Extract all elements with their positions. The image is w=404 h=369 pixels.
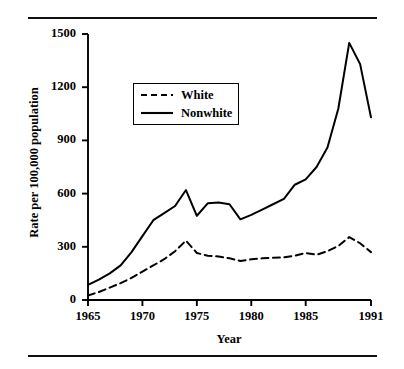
series-line-white xyxy=(88,237,371,296)
chart-legend: White Nonwhite xyxy=(133,83,239,125)
legend-entry-white: White xyxy=(140,86,214,104)
axis-lines xyxy=(88,34,371,300)
y-tick-label: 0 xyxy=(30,292,76,307)
legend-label-nonwhite: Nonwhite xyxy=(181,107,232,120)
x-tick-label: 1980 xyxy=(228,309,274,324)
legend-solid-line-icon xyxy=(140,108,174,118)
legend-label-white: White xyxy=(181,89,214,102)
x-tick-label: 1965 xyxy=(65,309,111,324)
figure-container: 030060090012001500 196519701975198019851… xyxy=(0,0,404,369)
x-tick-label: 1991 xyxy=(348,309,394,324)
bottom-divider-rule xyxy=(28,355,377,357)
y-axis-title: Rate per 100,000 population xyxy=(27,83,42,243)
x-tick-label: 1985 xyxy=(283,309,329,324)
legend-entry-nonwhite: Nonwhite xyxy=(140,104,232,122)
x-axis-title: Year xyxy=(184,332,274,347)
x-tick-label: 1975 xyxy=(174,309,220,324)
x-tick-label: 1970 xyxy=(119,309,165,324)
y-tick-label: 1500 xyxy=(30,26,76,41)
legend-dashed-line-icon xyxy=(140,90,174,100)
series-line-nonwhite xyxy=(88,43,371,285)
data-series-group xyxy=(88,43,371,296)
